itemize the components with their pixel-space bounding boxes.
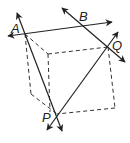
line-PQ xyxy=(47,32,118,130)
label-P: P xyxy=(42,110,51,125)
label-Q: Q xyxy=(112,38,122,53)
geometry-diagram: A B Q P xyxy=(0,0,130,143)
label-B: B xyxy=(79,9,88,24)
solid-lines xyxy=(8,8,125,131)
cube-dashed-edges xyxy=(25,34,115,114)
line-AP xyxy=(17,13,62,131)
label-A: A xyxy=(10,21,20,36)
